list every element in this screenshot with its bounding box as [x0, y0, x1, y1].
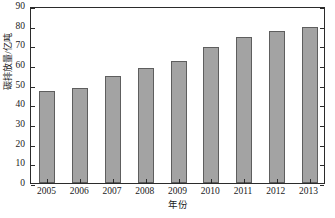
bar	[138, 68, 154, 183]
x-axis-tick-mark	[310, 179, 311, 183]
y-axis-tick-mark-right	[320, 106, 324, 107]
bar	[72, 88, 88, 183]
bar	[203, 47, 219, 183]
x-axis-tick-label: 2007	[102, 187, 121, 197]
y-axis-tick-mark	[31, 106, 35, 107]
x-axis-tick-label: 2011	[234, 187, 253, 197]
x-axis-tick-mark	[277, 179, 278, 183]
y-axis-tick-mark-right	[320, 126, 324, 127]
x-axis-tick-label: 2010	[201, 187, 220, 197]
x-axis-tick-label: 2012	[266, 187, 285, 197]
bar	[302, 27, 318, 183]
y-axis-tick-label: 0	[20, 179, 25, 189]
x-axis-tick-label: 2009	[168, 187, 187, 197]
bar	[171, 61, 187, 183]
y-axis-tick-mark	[31, 185, 35, 186]
y-axis-tick-mark	[31, 87, 35, 88]
y-axis-tick-mark-right	[320, 165, 324, 166]
bar	[39, 91, 55, 183]
x-axis-tick-mark	[244, 179, 245, 183]
bar-chart: 碳排放量/亿吨 0102030405060708090 200520062007…	[0, 0, 335, 218]
x-axis-tick-label: 2006	[70, 187, 89, 197]
y-axis-tick-mark-right	[320, 28, 324, 29]
y-axis-tick-mark	[31, 126, 35, 127]
y-axis-tick-mark	[31, 28, 35, 29]
y-axis-tick-label: 90	[16, 2, 26, 12]
y-axis-tick-label: 10	[16, 160, 26, 170]
x-axis-tick-labels: 200520062007200820092010201120122013	[30, 187, 325, 201]
y-axis-tick-mark	[31, 165, 35, 166]
y-axis-tick-label: 50	[16, 81, 26, 91]
y-axis-tick-mark-right	[320, 185, 324, 186]
y-axis-tick-label: 80	[16, 22, 26, 32]
y-axis-tick-mark	[31, 8, 35, 9]
y-axis-tick-mark-right	[320, 87, 324, 88]
x-axis-tick-label: 2005	[37, 187, 56, 197]
x-axis-tick-mark	[211, 179, 212, 183]
y-axis-tick-mark	[31, 67, 35, 68]
x-axis-tick-label: 2008	[135, 187, 154, 197]
x-axis-tick-label: 2013	[299, 187, 318, 197]
x-axis-tick-mark	[146, 179, 147, 183]
y-axis-tick-mark-right	[320, 146, 324, 147]
x-axis-tick-mark	[179, 179, 180, 183]
x-axis-title: 年份	[30, 201, 325, 211]
y-axis-tick-labels: 0102030405060708090	[0, 0, 28, 218]
y-axis-tick-label: 20	[16, 140, 26, 150]
y-axis-tick-label: 60	[16, 61, 26, 71]
y-axis-tick-label: 30	[16, 120, 26, 130]
y-axis-tick-mark-right	[320, 47, 324, 48]
x-axis-tick-mark	[47, 179, 48, 183]
x-axis-tick-mark	[80, 179, 81, 183]
y-axis-tick-mark-right	[320, 67, 324, 68]
y-axis-tick-label: 70	[16, 42, 26, 52]
plot-area	[30, 7, 325, 184]
bar	[105, 76, 121, 183]
y-axis-tick-mark-right	[320, 8, 324, 9]
bar	[269, 31, 285, 183]
bar	[236, 37, 252, 183]
x-axis-tick-mark	[113, 179, 114, 183]
y-axis-tick-label: 40	[16, 101, 26, 111]
bars-layer	[31, 8, 324, 183]
y-axis-tick-mark	[31, 47, 35, 48]
y-axis-tick-mark	[31, 146, 35, 147]
